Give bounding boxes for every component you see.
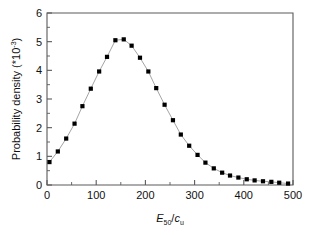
data-point-marker: [245, 177, 249, 181]
data-point-marker: [146, 69, 150, 73]
y-tick-label: 1: [36, 150, 42, 162]
data-point-marker: [154, 86, 158, 90]
data-point-marker: [56, 149, 60, 153]
y-tick-label: 0: [36, 179, 42, 191]
data-point-marker: [89, 87, 93, 91]
data-point-marker: [113, 38, 117, 42]
data-point-marker: [203, 161, 207, 165]
data-point-marker: [162, 103, 166, 107]
svg-text:Probability density (*10-3): Probability density (*10-3): [10, 38, 22, 160]
x-tick-label: 300: [185, 189, 203, 201]
data-point-marker: [228, 173, 232, 177]
data-point-marker: [80, 104, 84, 108]
data-point-marker: [97, 69, 101, 73]
data-point-marker: [220, 171, 224, 175]
x-tick-label: 200: [136, 189, 154, 201]
probability-density-chart: 0100200300400500 0123456 E50/cu Probabil…: [0, 0, 315, 235]
data-point-marker: [138, 56, 142, 60]
data-point-marker: [64, 136, 68, 140]
x-tick-label: 500: [284, 189, 302, 201]
y-tick-label: 5: [36, 36, 42, 48]
data-point-marker: [72, 122, 76, 126]
data-point-marker: [261, 179, 265, 183]
x-tick-label: 0: [44, 189, 50, 201]
data-point-marker: [277, 181, 281, 185]
x-tick-label: 400: [235, 189, 253, 201]
data-point-marker: [269, 180, 273, 184]
y-tick-label: 6: [36, 7, 42, 19]
x-tick-label: 100: [87, 189, 105, 201]
data-point-marker: [105, 55, 109, 59]
data-point-marker: [122, 37, 126, 41]
y-axis-title: Probability density (*10-3): [10, 38, 22, 160]
data-point-marker: [286, 181, 290, 185]
data-point-marker: [171, 118, 175, 122]
y-tick-label: 2: [36, 122, 42, 134]
y-tick-label: 3: [36, 93, 42, 105]
data-point-marker: [253, 178, 257, 182]
data-point-marker: [179, 132, 183, 136]
data-point-marker: [130, 44, 134, 48]
data-point-marker: [47, 160, 51, 164]
chart-figure: 0100200300400500 0123456 E50/cu Probabil…: [0, 0, 315, 235]
y-tick-label: 4: [36, 64, 42, 76]
data-point-marker: [212, 166, 216, 170]
data-point-marker: [195, 153, 199, 157]
data-point-marker: [236, 175, 240, 179]
data-point-marker: [187, 144, 191, 148]
